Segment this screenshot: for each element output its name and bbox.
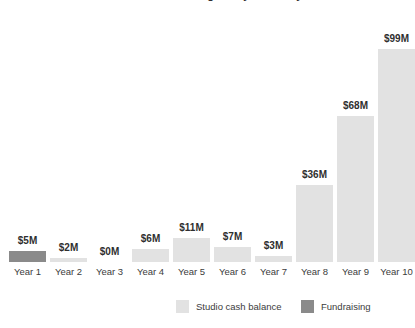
bar-slot: $99M [376,0,415,262]
bar[interactable] [378,49,415,262]
x-tick-label: Year 2 [48,266,89,277]
x-tick-label: Year 6 [212,266,253,277]
x-tick-label: Year 3 [89,266,130,277]
bar-chart: Studio cash balance grows year over year… [0,0,415,328]
bar[interactable] [337,116,374,262]
x-axis-baseline [0,262,415,263]
x-tick-label: Year 8 [294,266,335,277]
bar[interactable] [9,251,46,262]
legend-swatch-icon [176,300,189,313]
bar-value-label: $99M [376,33,415,44]
legend-label: Fundraising [321,301,371,312]
bar-slot: $68M [335,0,376,262]
bar-value-label: $36M [294,169,335,180]
bar-value-label: $6M [130,233,171,244]
bar-value-label: $7M [212,231,253,242]
bar[interactable] [296,185,333,262]
bar-value-label: $3M [253,240,294,251]
bar-value-label: $0M [89,246,130,257]
bar-value-label: $2M [48,242,89,253]
x-tick-label: Year 5 [171,266,212,277]
legend-swatch-icon [301,300,314,313]
bar-slot: $36M [294,0,335,262]
bar[interactable] [214,247,251,262]
legend-item[interactable]: Fundraising [301,298,371,314]
bar-slot: $3M [253,0,294,262]
x-tick-label: Year 7 [253,266,294,277]
bar-slot: $2M [48,0,89,262]
x-tick-label: Year 1 [7,266,48,277]
bar[interactable] [132,249,169,262]
bar-value-label: $68M [335,100,376,111]
legend-item[interactable]: Studio cash balance [176,298,282,314]
bar-slot: $5M [7,0,48,262]
bar-value-label: $5M [7,235,48,246]
x-tick-label: Year 4 [130,266,171,277]
bar-slot: $11M [171,0,212,262]
x-tick-label: Year 9 [335,266,376,277]
x-axis-tick-labels: Year 1Year 2Year 3Year 4Year 5Year 6Year… [0,266,415,280]
chart-legend: Studio cash balanceFundraising [0,298,415,314]
x-tick-label: Year 10 [376,266,415,277]
plot-area: $5M$2M$0M$6M$11M$7M$3M$36M$68M$99M [0,0,415,262]
bar-value-label: $11M [171,222,212,233]
bar[interactable] [173,238,210,262]
legend-label: Studio cash balance [196,301,282,312]
bar-slot: $6M [130,0,171,262]
bar-slot: $7M [212,0,253,262]
bar-slot: $0M [89,0,130,262]
